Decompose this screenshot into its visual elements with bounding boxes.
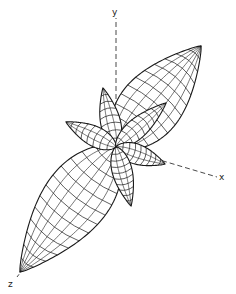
axis-label-z: z bbox=[8, 280, 13, 289]
axis-label-y: y bbox=[112, 8, 117, 17]
axis-label-x: x bbox=[219, 173, 224, 182]
main-lobe-lower-left bbox=[20, 145, 122, 272]
lobe-outline bbox=[20, 145, 122, 272]
lobes-group bbox=[20, 46, 201, 272]
lobe-diagram bbox=[0, 0, 236, 294]
